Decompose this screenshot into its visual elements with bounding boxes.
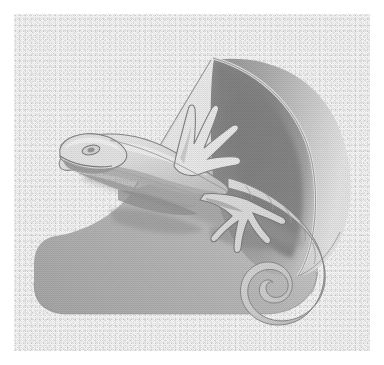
lizard-on-cone-artwork — [14, 14, 370, 351]
illustration-stage: Lizard Draped Over a Cone halftone dithe… — [0, 0, 384, 365]
object-cone-description: Large cone opening toward upper right, a… — [0, 0, 1, 1]
object-lizard-description: Pale grey lizard lying diagonally across… — [0, 0, 1, 1]
image-style: halftone dithered grayscale line illustr… — [0, 0, 1, 1]
object-tail-description: Long tapering banded tail that sweeps ri… — [0, 0, 1, 1]
paper-canvas — [14, 14, 370, 351]
image-subject: lizard-on-cone — [0, 0, 1, 1]
image-title: Lizard Draped Over a Cone — [0, 0, 1, 1]
